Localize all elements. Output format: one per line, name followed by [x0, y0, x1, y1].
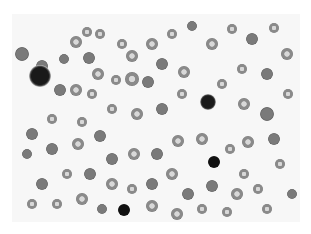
red-blood-cell: [269, 23, 279, 33]
red-blood-cell: [106, 153, 118, 165]
red-blood-cell: [22, 149, 32, 159]
red-blood-cell: [97, 204, 107, 214]
red-blood-cell: [187, 21, 197, 31]
red-blood-cell: [70, 36, 82, 48]
red-blood-cell: [146, 200, 158, 212]
red-blood-cell: [27, 199, 37, 209]
red-blood-cell: [131, 108, 143, 120]
red-blood-cell: [70, 84, 82, 96]
nucleated-cell: [118, 204, 130, 216]
red-blood-cell: [82, 27, 92, 37]
red-blood-cell: [182, 188, 194, 200]
red-blood-cell: [166, 168, 178, 180]
red-blood-cell: [260, 107, 274, 121]
red-blood-cell: [128, 148, 140, 160]
red-blood-cell: [111, 75, 121, 85]
red-blood-cell: [36, 178, 48, 190]
red-blood-cell: [84, 168, 96, 180]
red-blood-cell: [47, 114, 57, 124]
red-blood-cell: [62, 169, 72, 179]
red-blood-cell: [206, 38, 218, 50]
red-blood-cell: [151, 148, 163, 160]
red-blood-cell: [76, 193, 88, 205]
red-blood-cell: [217, 79, 227, 89]
red-blood-cell: [171, 208, 183, 220]
red-blood-cell: [156, 58, 168, 70]
red-blood-cell: [87, 89, 97, 99]
red-blood-cell: [287, 189, 297, 199]
nucleated-cell: [200, 94, 216, 110]
red-blood-cell: [197, 204, 207, 214]
red-blood-cell: [227, 24, 237, 34]
red-blood-cell: [83, 52, 95, 64]
red-blood-cell: [72, 138, 84, 150]
red-blood-cell: [261, 68, 273, 80]
red-blood-cell: [52, 199, 62, 209]
red-blood-cell: [106, 178, 118, 190]
red-blood-cell: [59, 54, 69, 64]
nucleated-cell: [29, 65, 51, 87]
red-blood-cell: [242, 136, 254, 148]
red-blood-cell: [231, 188, 243, 200]
red-blood-cell: [283, 89, 293, 99]
red-blood-cell: [26, 128, 38, 140]
red-blood-cell: [225, 144, 235, 154]
red-blood-cell: [77, 117, 87, 127]
red-blood-cell: [94, 130, 106, 142]
nucleated-cell: [208, 156, 220, 168]
red-blood-cell: [156, 103, 168, 115]
red-blood-cell: [206, 180, 218, 192]
red-blood-cell: [146, 38, 158, 50]
red-blood-cell: [95, 29, 105, 39]
red-blood-cell: [117, 39, 127, 49]
red-blood-cell: [127, 184, 137, 194]
red-blood-cell: [275, 159, 285, 169]
red-blood-cell: [246, 33, 258, 45]
red-blood-cell: [178, 66, 190, 78]
red-blood-cell: [196, 133, 208, 145]
blood-smear-image: [12, 14, 300, 222]
red-blood-cell: [54, 84, 66, 96]
red-blood-cell: [46, 143, 58, 155]
red-blood-cell: [281, 48, 293, 60]
red-blood-cell: [262, 204, 272, 214]
red-blood-cell: [268, 133, 280, 145]
red-blood-cell: [146, 178, 158, 190]
red-blood-cell: [239, 169, 249, 179]
red-blood-cell: [172, 135, 184, 147]
red-blood-cell: [107, 104, 117, 114]
red-blood-cell: [126, 50, 138, 62]
red-blood-cell: [125, 72, 139, 86]
red-blood-cell: [238, 98, 250, 110]
red-blood-cell: [92, 68, 104, 80]
red-blood-cell: [15, 47, 29, 61]
red-blood-cell: [167, 29, 177, 39]
red-blood-cell: [142, 76, 154, 88]
red-blood-cell: [222, 207, 232, 217]
red-blood-cell: [237, 64, 247, 74]
red-blood-cell: [253, 184, 263, 194]
red-blood-cell: [177, 89, 187, 99]
